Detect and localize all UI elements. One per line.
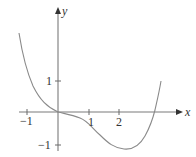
y-axis-arrow-icon — [55, 7, 61, 14]
x-tick-label-1: 1 — [88, 115, 94, 129]
x-tick-label-neg1: −1 — [20, 114, 33, 128]
function-curve — [19, 33, 161, 149]
y-axis-label: y — [61, 4, 68, 18]
y-tick-label-neg1: −1 — [38, 138, 51, 152]
function-graph: −1 1 2 1 −1 x y — [0, 0, 196, 157]
y-tick-label-1: 1 — [46, 74, 52, 88]
x-tick-label-2: 2 — [116, 115, 122, 129]
x-axis-label: x — [184, 105, 191, 119]
x-axis-arrow-icon — [176, 109, 183, 115]
